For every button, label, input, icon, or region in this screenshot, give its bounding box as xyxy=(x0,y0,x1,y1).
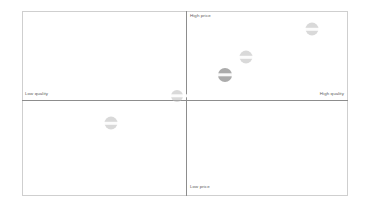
axis-label-low-quality: Low quality xyxy=(25,91,48,97)
vertical-price-axis xyxy=(186,11,187,196)
data-point-label-band xyxy=(299,28,326,31)
chart-plot-frame xyxy=(22,11,348,196)
data-point[interactable] xyxy=(218,68,232,82)
axis-label-low-price: Low price xyxy=(190,184,210,190)
data-point[interactable] xyxy=(306,23,319,36)
axis-label-high-quality: High quality xyxy=(320,91,344,97)
axis-label-high-price: High price xyxy=(190,13,211,19)
data-point-label-band xyxy=(233,56,260,59)
data-point-label-band xyxy=(164,94,190,97)
data-point[interactable] xyxy=(104,117,117,130)
horizontal-quality-axis xyxy=(22,100,348,101)
data-point-label-band xyxy=(97,122,124,125)
data-point[interactable] xyxy=(171,90,183,102)
data-point[interactable] xyxy=(240,51,253,64)
data-point-label-band xyxy=(211,73,239,76)
perceptual-map-chart: High price Low price Low quality High qu… xyxy=(0,0,366,209)
